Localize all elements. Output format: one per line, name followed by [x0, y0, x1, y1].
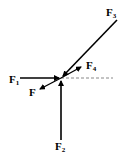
force-f-arrow	[40, 78, 61, 89]
force-diagram: F3 F4 F1 F F2	[0, 0, 121, 159]
label-f3: F3	[106, 7, 116, 20]
label-f1: F1	[9, 74, 19, 87]
label-f4: F4	[86, 60, 96, 73]
label-f: F	[29, 87, 36, 98]
label-f2: F2	[55, 141, 65, 154]
